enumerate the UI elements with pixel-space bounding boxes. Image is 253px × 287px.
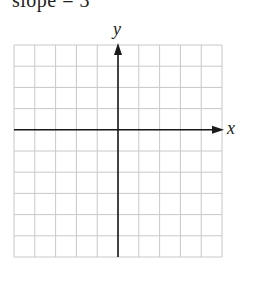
coordinate-grid [0,0,253,287]
axes [14,43,224,257]
y-axis-label: y [113,20,121,38]
x-axis-label: x [227,119,235,137]
